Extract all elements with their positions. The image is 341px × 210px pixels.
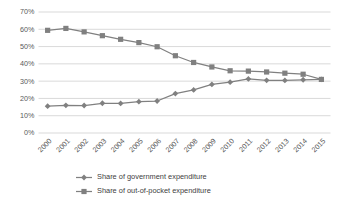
data-point-marker: [209, 82, 215, 88]
data-point-marker: [81, 103, 87, 109]
x-tick-label: 2012: [255, 137, 273, 155]
y-tick-label: 20%: [20, 94, 35, 103]
data-point-marker: [209, 64, 214, 69]
x-tick-label: 2015: [310, 137, 328, 155]
data-point-marker: [99, 100, 105, 106]
y-tick-label: 50%: [20, 42, 35, 51]
x-axis-tick-labels: 2000200120022003200420052006200720082009…: [36, 137, 327, 155]
data-point-marker: [63, 26, 68, 31]
data-point-marker: [172, 91, 178, 97]
data-point-marker: [246, 69, 251, 74]
data-series: [45, 26, 325, 109]
data-point-marker: [191, 60, 196, 65]
x-tick-label: 2006: [145, 137, 163, 155]
x-tick-label: 2002: [72, 137, 90, 155]
data-point-marker: [228, 68, 233, 73]
data-point-marker: [264, 77, 270, 83]
chart-legend: Share of government expenditureShare of …: [76, 172, 211, 195]
data-point-marker: [154, 98, 160, 104]
data-point-marker: [300, 77, 306, 83]
legend-label: Share of government expenditure: [97, 172, 207, 181]
data-point-marker: [191, 87, 197, 93]
data-point-marker: [63, 102, 69, 108]
legend-label: Share of out-of-pocket expenditure: [97, 186, 211, 195]
data-point-marker: [282, 71, 287, 76]
legend-square-marker-icon: [81, 189, 86, 194]
data-point-marker: [264, 69, 269, 74]
series-line: [48, 79, 322, 106]
x-tick-label: 2001: [54, 137, 72, 155]
legend-item-2[interactable]: Share of out-of-pocket expenditure: [76, 186, 211, 195]
x-tick-label: 2010: [218, 137, 236, 155]
series-line: [48, 28, 322, 79]
data-point-marker: [155, 44, 160, 49]
x-tick-label: 2000: [36, 137, 54, 155]
data-point-marker: [45, 103, 51, 109]
legend-item-1[interactable]: Share of government expenditure: [76, 172, 207, 181]
x-tick-label: 2003: [91, 137, 109, 155]
x-tick-label: 2005: [127, 137, 145, 155]
data-point-marker: [301, 72, 306, 77]
y-tick-label: 70%: [20, 7, 35, 16]
data-point-marker: [319, 77, 324, 82]
x-tick-label: 2014: [291, 137, 309, 155]
data-point-marker: [136, 40, 141, 45]
y-tick-label: 0%: [24, 128, 35, 137]
data-point-marker: [173, 53, 178, 58]
chart-canvas: 0%10%20%30%40%50%60%70% 2000200120022003…: [0, 0, 341, 210]
y-tick-label: 10%: [20, 111, 35, 120]
data-point-marker: [282, 78, 288, 84]
legend-diamond-marker-icon: [81, 175, 87, 181]
data-point-marker: [136, 99, 142, 105]
data-point-marker: [45, 28, 50, 33]
x-tick-label: 2009: [200, 137, 218, 155]
y-tick-label: 60%: [20, 25, 35, 34]
x-tick-label: 2007: [164, 137, 182, 155]
data-point-marker: [227, 79, 233, 85]
data-point-marker: [100, 33, 105, 38]
y-tick-label: 30%: [20, 77, 35, 86]
series-2: [45, 26, 324, 82]
y-tick-label: 40%: [20, 59, 35, 68]
data-point-marker: [118, 37, 123, 42]
y-axis-tick-labels: 0%10%20%30%40%50%60%70%: [20, 7, 35, 137]
x-tick-label: 2011: [237, 137, 254, 154]
line-chart: 0%10%20%30%40%50%60%70% 2000200120022003…: [0, 0, 341, 210]
x-tick-label: 2013: [273, 137, 291, 155]
x-tick-label: 2004: [109, 137, 127, 155]
data-point-marker: [82, 29, 87, 34]
x-tick-label: 2008: [182, 137, 200, 155]
data-point-marker: [118, 101, 124, 107]
